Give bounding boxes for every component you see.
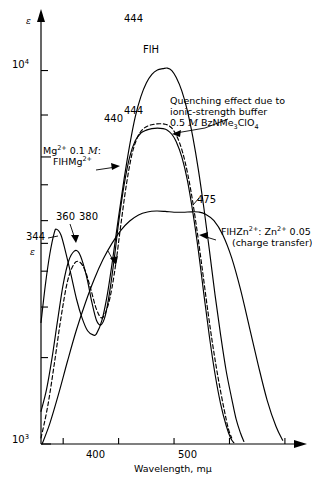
annotation-zinc-line2: (charge transfer): [221, 237, 312, 248]
curve-quenched-ionic-strength-buffer: [41, 124, 232, 438]
y-tick-label-1000: 103: [12, 433, 29, 446]
annotation-quenching: Quenching effect due to ionic-strength b…: [170, 95, 285, 132]
y-tick-10000-exp: 4: [25, 58, 29, 66]
leader-360-arrow: [71, 235, 79, 243]
leader-magnesium-arrow: [111, 163, 120, 170]
peak-label-440: 440: [104, 113, 123, 125]
y-tick-1000-exp: 3: [25, 433, 29, 441]
annotation-quenching-line2: ionic-strength buffer: [170, 106, 285, 117]
zn-line1-c: 0.05: [287, 226, 312, 237]
y-axis-symbol-epsilon-mid: ε: [30, 247, 35, 258]
y-axis-symbol-epsilon: ε: [26, 16, 31, 27]
quench-prefix: 0.5: [170, 117, 188, 128]
y-tick-label-10000: 104: [12, 58, 29, 71]
quench-formula: BzNMe: [198, 117, 234, 128]
curve-label-flh: FlH: [143, 44, 159, 56]
annotation-zinc-line1: FlHZn2+: Zn2+ 0.05 M: [221, 226, 312, 237]
x-axis-arrowhead: [294, 440, 307, 448]
annotation-magnesium-line1: Mg2+ 0.1 M:: [43, 145, 101, 156]
y-axis-arrowhead: [37, 9, 45, 22]
annotation-magnesium: Mg2+ 0.1 M: FlHMg2+: [43, 145, 101, 168]
zn-line1-b: : Zn: [258, 226, 277, 237]
leader-zinc-arrow: [199, 232, 208, 239]
mg-line2-sup: 2+: [82, 155, 92, 163]
mg-line1-sup: 2+: [57, 144, 67, 152]
peak-label-dashed-444: 444: [124, 105, 143, 117]
peak-label-475: 475: [197, 194, 216, 206]
x-axis-title-text: Wavelength, mμ: [134, 463, 212, 474]
y-tick-10000-base: 10: [12, 59, 25, 70]
annotation-quenching-line1: Quenching effect due to: [170, 95, 285, 106]
mg-line2-a: FlHMg: [53, 157, 82, 168]
quench-formula-tail: ClO: [238, 117, 255, 128]
x-tick-label-500: 500: [178, 449, 197, 461]
absorption-spectra-figure: ε 104 103 ε 400 500 Wavelength, mμ 444 F…: [0, 0, 312, 477]
mg-line1-c: :: [98, 145, 101, 156]
zn-line1-a: FlHZn: [221, 226, 249, 237]
x-axis-title: Wavelength, mμ: [134, 463, 212, 474]
quench-formula-sub2: 4: [254, 123, 258, 131]
x-tick-label-400: 400: [86, 449, 105, 461]
annotation-leader-lines: [48, 119, 228, 265]
annotation-zinc: FlHZn2+: Zn2+ 0.05 M (charge transfer): [221, 226, 312, 249]
x-axis-ticks: [63, 438, 285, 444]
peak-label-380: 380: [79, 211, 98, 223]
zn-line1-sup2: 2+: [277, 225, 287, 233]
y-tick-1000-base: 10: [12, 434, 25, 445]
peak-label-flh-444: 444: [124, 13, 143, 25]
peak-label-360: 360: [56, 211, 75, 223]
mg-line1-a: Mg: [43, 145, 57, 156]
zn-line1-sup: 2+: [249, 225, 259, 233]
annotation-quenching-line3: 0.5 M BzNMe3ClO4: [170, 117, 285, 132]
quench-molar-symbol: M: [188, 117, 198, 128]
peak-label-344: 344: [26, 231, 45, 243]
annotation-magnesium-line2: FlHMg2+: [43, 156, 101, 167]
